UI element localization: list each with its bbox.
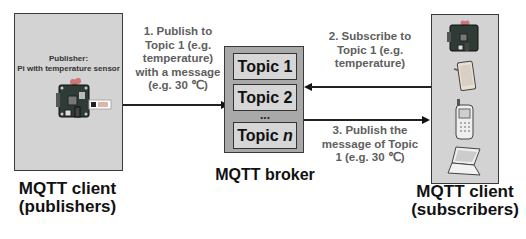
raspberry-pi-icon [446, 19, 484, 55]
topic-ellipsis: ... [225, 110, 305, 120]
deliver-arrow-label: 3. Publish the message of Topic 1 (e.g. … [310, 124, 430, 165]
subscribe-arrow-line [310, 86, 431, 88]
broker-panel: Topic 1 Topic 2 ... Topic n [224, 46, 304, 153]
deliver-arrowhead-icon [422, 116, 430, 124]
publisher-title: Publisher: Pi with temperature sensor [15, 54, 122, 74]
tablet-icon [452, 59, 478, 95]
publisher-panel: Publisher: Pi with temperature sensor [14, 13, 123, 171]
publisher-label: MQTT client (publishers) [0, 180, 135, 216]
topic-n: Topic n [233, 122, 297, 149]
publish-arrow-line [123, 104, 223, 106]
laptop-icon [446, 145, 486, 179]
broker-label: MQTT broker [200, 166, 330, 184]
subscriber-panel [431, 14, 499, 184]
mobile-phone-icon [452, 97, 478, 141]
subscribe-arrow-label: 2. Subscribe to Topic 1 (e.g. temperatur… [315, 30, 425, 71]
deliver-arrow-line [304, 119, 424, 121]
subscriber-label: MQTT client (subscribers) [405, 183, 525, 219]
raspberry-pi-with-sensor-icon [53, 76, 123, 126]
topic-2: Topic 2 [233, 84, 297, 111]
topic-1: Topic 1 [233, 53, 297, 80]
publish-arrow-label: 1. Publish to Topic 1 (e.g. temperature)… [122, 25, 234, 93]
